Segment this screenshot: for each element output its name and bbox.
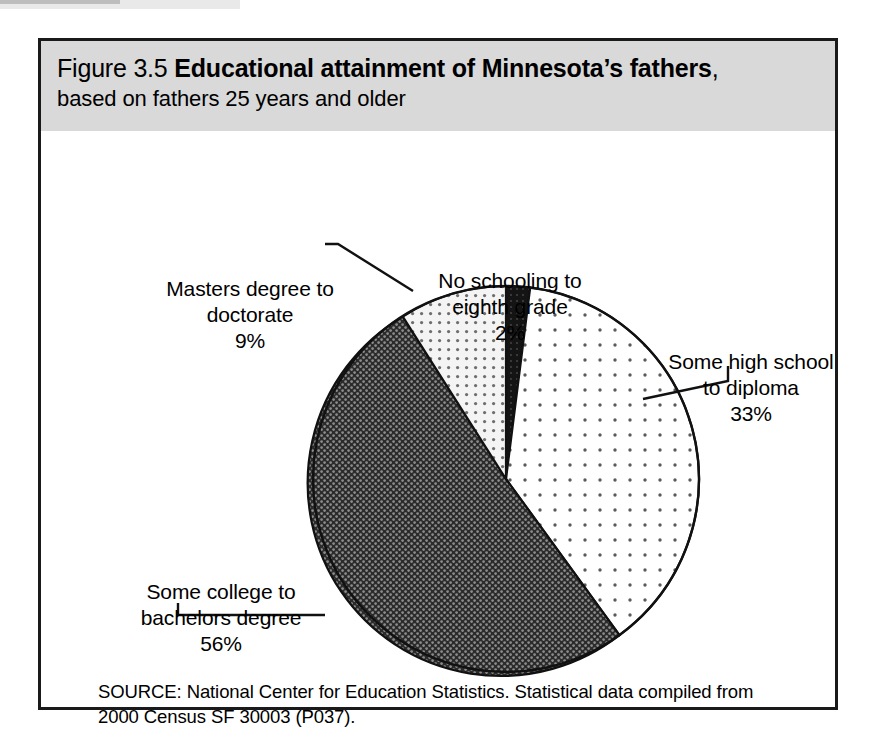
pie-label-no-schooling-line1: No schooling to xyxy=(399,268,621,294)
pie-label-masters-line2: doctorate xyxy=(125,302,375,328)
scan-artifact-band-dark xyxy=(0,0,120,4)
pie-label-masters-value: 9% xyxy=(125,328,375,354)
pie-label-high-school-line1: Some high school xyxy=(626,349,876,375)
pie-chart-area: Masters degree to doctorate 9% No school… xyxy=(41,131,835,713)
source-note-line1: SOURCE: National Center for Education St… xyxy=(98,679,838,704)
pie-label-no-schooling-line2: eighth grade xyxy=(399,294,621,320)
pie-label-no-schooling-value: 2% xyxy=(399,320,621,346)
pie-label-masters: Masters degree to doctorate 9% xyxy=(125,276,375,354)
pie-label-some-college-line2: bachelors degree xyxy=(81,605,361,631)
pie-label-masters-line1: Masters degree to xyxy=(125,276,375,302)
pie-label-high-school-line2: to diploma xyxy=(626,375,876,401)
pie-label-some-college-value: 56% xyxy=(81,631,361,657)
pie-label-some-college-line1: Some college to xyxy=(81,579,361,605)
pie-label-some-college: Some college to bachelors degree 56% xyxy=(81,579,361,657)
figure-title-line: Figure 3.5 Educational attainment of Min… xyxy=(57,52,819,84)
source-note-line2: 2000 Census SF 30003 (P037). xyxy=(98,704,838,729)
figure-subtitle: based on fathers 25 years and older xyxy=(57,84,819,114)
figure-page: Figure 3.5 Educational attainment of Min… xyxy=(0,0,881,748)
source-note: SOURCE: National Center for Education St… xyxy=(98,679,838,729)
figure-frame: Figure 3.5 Educational attainment of Min… xyxy=(38,38,838,710)
figure-title-comma: , xyxy=(712,54,719,82)
pie-label-no-schooling: No schooling to eighth grade 2% xyxy=(399,268,621,346)
pie-label-high-school: Some high school to diploma 33% xyxy=(626,349,876,427)
pie-label-high-school-value: 33% xyxy=(626,401,876,427)
figure-title-bold: Educational attainment of Minnesota’s fa… xyxy=(174,54,711,82)
figure-header: Figure 3.5 Educational attainment of Min… xyxy=(41,41,835,131)
figure-number: Figure 3.5 xyxy=(57,54,174,82)
